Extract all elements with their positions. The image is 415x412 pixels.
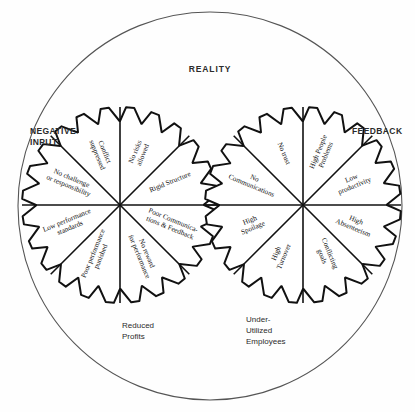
reality-title: REALITY bbox=[189, 64, 232, 74]
right-gear-spokes bbox=[205, 107, 401, 303]
feedback-label: FEEDBACK bbox=[352, 126, 403, 136]
svg-text:Reduced: Reduced bbox=[122, 321, 154, 330]
svg-text:NEGATIVE: NEGATIVE bbox=[30, 126, 76, 136]
reduced-profits-caption: Reduced Profits bbox=[122, 321, 154, 341]
under-utilized-employees-caption: Under- Utilized Employees bbox=[246, 315, 286, 346]
svg-text:Under-: Under- bbox=[246, 315, 271, 324]
svg-text:Utilized: Utilized bbox=[246, 326, 272, 335]
svg-text:Profits: Profits bbox=[122, 332, 145, 341]
gears-of-reality-diagram: No risksallowedRigid StructurePoor Commu… bbox=[0, 0, 415, 412]
diagram-canvas: No risksallowedRigid StructurePoor Commu… bbox=[0, 0, 415, 412]
svg-text:INPUT: INPUT bbox=[30, 137, 58, 147]
right-gear: High PeopleProblemsLowproductivityHighAb… bbox=[205, 107, 401, 303]
svg-text:Employees: Employees bbox=[246, 337, 286, 346]
